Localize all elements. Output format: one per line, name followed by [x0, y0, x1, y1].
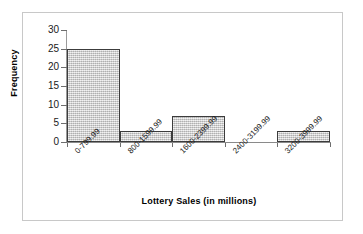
- y-tick-label-25: 25: [37, 44, 59, 54]
- y-axis-title: Frequency: [9, 38, 19, 108]
- y-tick-0: [61, 142, 67, 143]
- y-tick-label-15: 15: [37, 81, 59, 91]
- y-tick-label-5: 5: [37, 118, 59, 128]
- y-tick-15: [61, 86, 67, 87]
- x-tick-1: [120, 143, 121, 147]
- histogram-figure: 051015202530 Frequency 0-799.99800-1599.…: [0, 0, 363, 234]
- x-tick-0: [67, 143, 68, 147]
- y-tick-label-0: 0: [37, 137, 59, 147]
- plot-area: [67, 30, 330, 142]
- x-tick-2: [172, 143, 173, 147]
- y-tick-5: [61, 123, 67, 124]
- y-tick-20: [61, 67, 67, 68]
- y-axis-tick-labels: 051015202530: [33, 0, 59, 234]
- y-tick-label-30: 30: [37, 25, 59, 35]
- y-tick-label-10: 10: [37, 100, 59, 110]
- x-tick-5: [330, 143, 331, 147]
- y-tick-30: [61, 30, 67, 31]
- y-tick-10: [61, 105, 67, 106]
- y-tick-label-20: 20: [37, 62, 59, 72]
- x-tick-3: [225, 143, 226, 147]
- x-axis-title: Lottery Sales (in millions): [67, 196, 331, 206]
- x-tick-4: [277, 143, 278, 147]
- y-tick-25: [61, 49, 67, 50]
